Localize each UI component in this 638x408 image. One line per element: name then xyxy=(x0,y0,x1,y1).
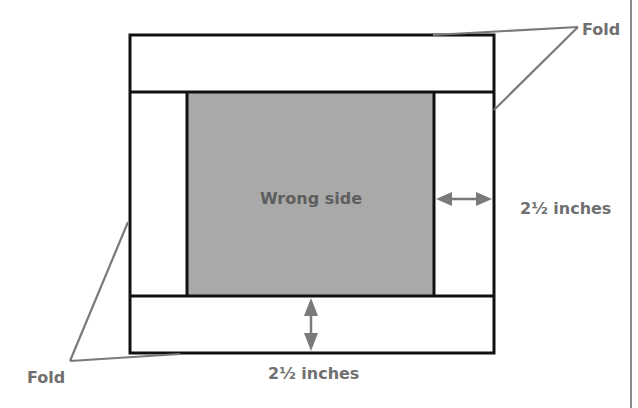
double-arrow-vertical-icon xyxy=(304,298,318,351)
fold-leader-bottom xyxy=(70,222,180,361)
measure-label-bottom: 2½ inches xyxy=(268,364,359,383)
wrong-side-label: Wrong side xyxy=(260,189,362,208)
measure-label-right: 2½ inches xyxy=(520,199,611,218)
fold-leader-top xyxy=(433,27,578,110)
fold-label-top: Fold xyxy=(582,20,620,39)
fold-label-bottom: Fold xyxy=(27,368,65,387)
double-arrow-horizontal-icon xyxy=(436,192,492,206)
fold-diagram: Wrong side Fold Fold 2½ inches 2½ inches xyxy=(0,0,638,408)
